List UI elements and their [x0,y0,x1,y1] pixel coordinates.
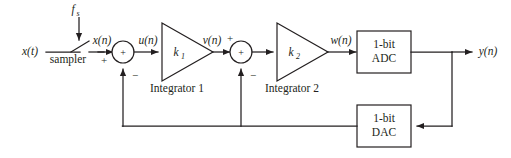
output-group: y(n) [411,45,497,58]
summer2-minus-bottom: − [250,69,256,81]
clock-input-group: f s [71,3,79,40]
adc-label-line2: ADC [372,52,397,64]
clock-label-subscript: s [76,9,79,18]
summing-junction-2: + − [230,41,256,81]
summing-junction-1: + − [112,41,138,81]
gain2-subscript: 2 [296,52,300,61]
feedback-to-dac-group [417,52,452,126]
output-signal-label: y(n) [478,45,498,58]
integrator1-triangle [162,23,213,81]
dac-block: 1-bit DAC [357,105,411,147]
adc-label-line1: 1-bit [373,38,396,50]
v-signal-label: v(n) [203,34,222,47]
dac-label-line1: 1-bit [373,112,396,124]
gain2-label: k [288,46,294,58]
summer1-plus-center: + [120,47,126,58]
summer2-plus-top: + [227,32,233,44]
summer1-input-group: + [98,52,113,66]
summer2-plus-center: + [238,47,244,58]
integrator2-label: Integrator 2 [265,82,319,95]
block-diagram-canvas: f s x(t) sampler x(n) + + − u(n) [0,0,511,158]
adc-block: 1-bit ADC [357,31,411,73]
w-signal-label: w(n) [330,34,351,47]
integrator2-triangle [277,23,328,81]
feedback-bus-group [122,69,357,126]
sampler-label: sampler [50,53,87,66]
sampled-signal-label: x(n) [92,34,112,47]
gain1-label: k [173,46,179,58]
sigma-delta-modulator-diagram: f s x(t) sampler x(n) + + − u(n) [0,0,511,158]
sampler-group: x(t) sampler x(n) [21,34,111,66]
sampler-switch-blade [71,41,89,52]
gain1-subscript: 1 [181,52,185,61]
w-signal-group: w(n) [327,34,356,52]
input-signal-label: x(t) [21,45,38,58]
integrator1-label: Integrator 1 [150,82,204,95]
summer1-minus-bottom: − [132,69,138,81]
integrator-2-block: k 2 Integrator 2 [265,23,328,95]
u-signal-group: u(n) [134,34,158,52]
dac-label-line2: DAC [372,126,397,138]
summer1-plus-left: + [101,54,107,66]
u-signal-label: u(n) [138,34,157,47]
